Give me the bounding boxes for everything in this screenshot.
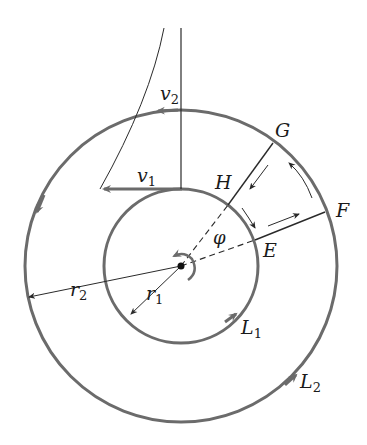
arrow-G-to-H [250, 165, 268, 189]
label-E: E [262, 239, 277, 261]
label-phi: φ [213, 227, 226, 248]
vortex-circulation-diagram: v2 v1 G H F E φ r2 r1 L1 L2 [0, 0, 367, 445]
outer-circle-arrow-top [158, 110, 178, 111]
segment-HG [228, 143, 273, 205]
vortex-center-dot [178, 263, 185, 270]
label-H: H [214, 171, 232, 193]
label-G: G [275, 119, 290, 141]
arrow-F-to-G [289, 163, 312, 198]
label-L2: L2 [299, 370, 321, 395]
velocity-profile-curve [100, 28, 164, 189]
label-v2: v2 [160, 82, 179, 107]
label-F: F [335, 199, 350, 221]
segment-EF [255, 212, 325, 240]
label-r2: r2 [70, 278, 87, 303]
label-v1: v1 [137, 164, 156, 189]
arrow-H-to-E [242, 208, 255, 228]
label-L1: L1 [240, 316, 262, 341]
